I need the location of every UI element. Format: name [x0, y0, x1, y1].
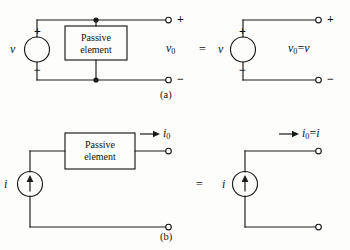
part-label-a: (a): [160, 90, 172, 101]
terminal-b-right-bottom: [316, 224, 322, 230]
part-label-b: (b): [160, 232, 172, 243]
passive-element-line1-a: Passive: [65, 32, 127, 44]
terminal-b-left-bottom: [166, 224, 172, 230]
current-direction-arrowhead-b-left: [153, 131, 160, 137]
polarity-plus-a-right-source: +: [239, 25, 246, 37]
terminal-polarity-minus-a-right: −: [327, 73, 334, 85]
current-direction-arrowhead-b-right: [292, 131, 299, 137]
source-label-b-right: i: [222, 178, 225, 190]
current-arrowhead-b-left: [27, 175, 34, 182]
result-rhs-a: v: [304, 41, 309, 55]
terminal-b-right-top: [316, 148, 322, 154]
terminal-a-left-top: [166, 17, 172, 23]
passive-element-line2-a: element: [65, 44, 127, 56]
passive-element-line2-b: element: [65, 151, 135, 163]
equals-sign-a: =: [199, 43, 206, 55]
voltage-source-symbol-a-left: [25, 37, 50, 62]
result-rhs-b: i: [316, 126, 319, 140]
junction-dot-a-top: [93, 17, 98, 22]
voltage-source-symbol-a-right: [231, 37, 256, 62]
terminal-polarity-plus-a-left: +: [177, 13, 184, 25]
passive-element-line1-b: Passive: [65, 139, 135, 151]
circuit-diagram-canvas: [0, 0, 350, 250]
equals-sign-b: =: [196, 178, 203, 190]
output-current-label-b-left: i0: [163, 127, 170, 141]
figure-root: + − v Passive element + − v0 = v + − + −…: [0, 0, 350, 250]
result-equation-b: i0=i: [302, 127, 320, 141]
terminal-a-right-bottom: [316, 77, 322, 83]
output-current-subscript-b-left: 0: [166, 132, 170, 141]
terminal-a-left-bottom: [166, 77, 172, 83]
polarity-plus-a-left-source: +: [34, 25, 41, 37]
terminal-a-right-top: [316, 17, 322, 23]
polarity-minus-a-right-source: −: [239, 64, 246, 76]
result-equation-a: v0=v: [288, 42, 310, 56]
output-voltage-label-a-left: v0: [166, 42, 175, 56]
passive-element-label-b: Passive element: [65, 139, 135, 163]
passive-element-label-a: Passive element: [65, 32, 127, 56]
polarity-minus-a-left-source: −: [34, 64, 41, 76]
terminal-polarity-minus-a-left: −: [177, 73, 184, 85]
source-label-a-left: v: [10, 43, 15, 55]
source-label-b-left: i: [4, 178, 7, 190]
terminal-polarity-plus-a-right: +: [327, 13, 334, 25]
source-label-a-right: v: [218, 43, 223, 55]
terminal-b-left-top: [166, 148, 172, 154]
current-arrowhead-b-right: [242, 175, 249, 182]
junction-dot-a-bottom: [93, 77, 98, 82]
output-voltage-subscript-a-left: 0: [171, 47, 175, 56]
